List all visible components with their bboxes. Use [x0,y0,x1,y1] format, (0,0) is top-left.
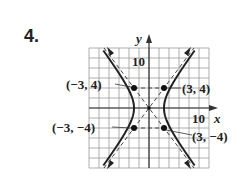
hyperbola-graph: y x 10 10 (−3, 4) (3, 4) (−3, −4) (3, −4… [0,0,250,177]
y-axis-arrow-icon [146,34,152,43]
x-tick-label: 10 [192,111,205,126]
point-neg3-neg4 [131,125,137,131]
leader-lines [112,84,192,135]
center-point [147,106,151,110]
y-tick-label: 10 [132,54,145,69]
y-axis-label: y [134,31,142,46]
point-neg3-4 [131,85,137,91]
point-label-3-4: (3, 4) [182,81,210,96]
point-label-3-neg4: (3, −4) [192,129,228,144]
point-3-4 [161,85,167,91]
point-label-neg3-neg4: (−3, −4) [52,120,95,135]
x-axis-label: x [213,111,221,126]
point-label-neg3-4: (−3, 4) [66,77,102,92]
